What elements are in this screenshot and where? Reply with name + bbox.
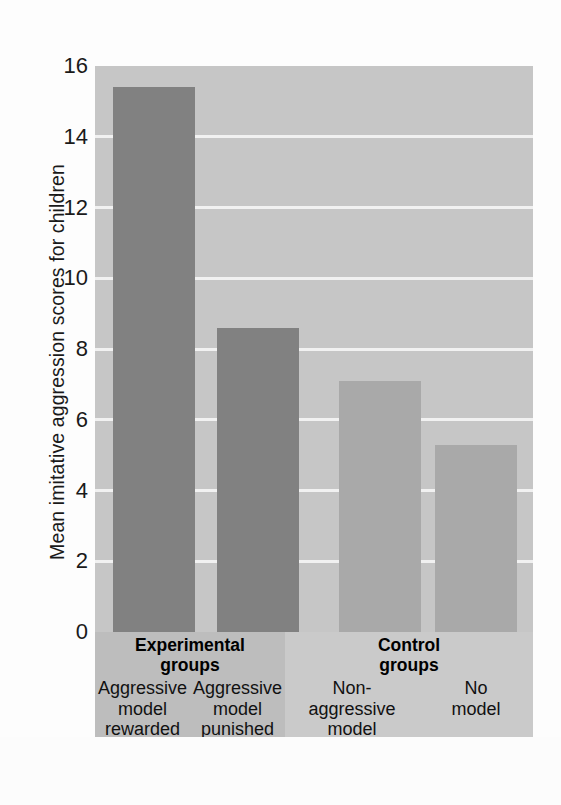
category-label-band: Experimental groups Aggressive model rew…: [95, 632, 533, 737]
plot-area: [95, 66, 533, 632]
y-tick-label-8: 8: [42, 336, 88, 362]
cat4-line2: model: [451, 699, 500, 719]
y-tick-label-10: 10: [42, 265, 88, 291]
y-tick-label-6: 6: [42, 407, 88, 433]
control-category-row: Non- aggressive model No model: [285, 678, 533, 740]
y-tick-label-14: 14: [42, 124, 88, 150]
bar-3: [339, 381, 421, 632]
control-title-line1: Control: [378, 635, 440, 655]
y-tick-label-16: 16: [42, 53, 88, 79]
control-title-line2: groups: [379, 655, 438, 675]
category-label-non-aggressive-model: Non- aggressive model: [285, 678, 419, 740]
cat1-line2: model: [118, 699, 167, 719]
bar-4: [435, 445, 517, 632]
category-label-aggressive-model-rewarded: Aggressive model rewarded: [95, 678, 190, 740]
experimental-title-line1: Experimental: [135, 635, 245, 655]
cat3-line1: Non-: [332, 678, 371, 698]
bar-2: [217, 328, 299, 632]
bar-chart-figure: Mean imitative aggression scores for chi…: [0, 0, 561, 805]
y-tick-label-0: 0: [42, 619, 88, 645]
figure-bottom-margin: [0, 737, 561, 805]
experimental-category-row: Aggressive model rewarded Aggressive mod…: [95, 678, 285, 740]
y-tick-label-4: 4: [42, 478, 88, 504]
cat3-line2: aggressive: [308, 699, 395, 719]
category-label-aggressive-model-punished: Aggressive model punished: [190, 678, 285, 740]
cat2-line2: model: [213, 699, 262, 719]
y-axis-tick-labels: 1614121086420: [40, 0, 88, 805]
category-label-no-model: No model: [419, 678, 533, 740]
control-group-title: Control groups: [285, 636, 533, 675]
experimental-group-band: Experimental groups Aggressive model rew…: [95, 632, 285, 737]
experimental-title-line2: groups: [160, 655, 219, 675]
cat4-line1: No: [464, 678, 487, 698]
cat1-line1: Aggressive: [98, 678, 187, 698]
cat2-line1: Aggressive: [193, 678, 282, 698]
control-group-band: Control groups Non- aggressive model No …: [285, 632, 533, 737]
y-tick-label-2: 2: [42, 548, 88, 574]
bar-1: [113, 87, 195, 632]
experimental-group-title: Experimental groups: [95, 636, 285, 675]
y-tick-label-12: 12: [42, 195, 88, 221]
